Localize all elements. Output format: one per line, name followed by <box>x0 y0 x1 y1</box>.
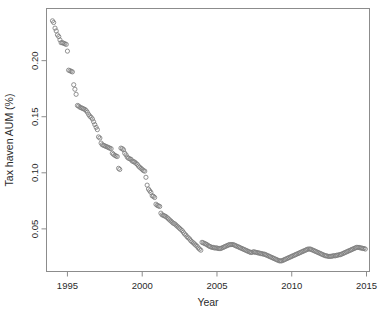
data-point <box>72 83 76 87</box>
data-points <box>50 19 367 263</box>
x-axis-title: Year <box>197 296 219 308</box>
x-axis-ticks: 19952000200520102015 <box>57 272 377 291</box>
data-point <box>116 166 120 170</box>
data-point <box>144 175 148 179</box>
data-point <box>73 87 77 91</box>
x-tick-label: 2015 <box>356 280 377 291</box>
y-tick-label: 0.10 <box>29 164 40 183</box>
y-tick-label: 0.20 <box>29 51 40 69</box>
x-tick-label: 2000 <box>132 280 153 291</box>
y-tick-label: 0.05 <box>29 220 40 239</box>
y-axis-ticks: 0.050.100.150.20 <box>29 51 46 238</box>
data-point <box>118 167 122 171</box>
data-point <box>74 92 78 96</box>
data-point <box>65 49 69 53</box>
scatter-plot: 19952000200520102015 0.050.100.150.20 Ye… <box>0 0 391 318</box>
y-tick-label: 0.15 <box>29 107 40 126</box>
x-tick-label: 2010 <box>281 280 302 291</box>
chart-figure: 19952000200520102015 0.050.100.150.20 Ye… <box>0 0 391 318</box>
y-axis-title: Tax haven AUM (%) <box>3 94 15 187</box>
x-tick-label: 2005 <box>206 280 227 291</box>
x-tick-label: 1995 <box>57 280 78 291</box>
plot-frame <box>47 9 370 272</box>
